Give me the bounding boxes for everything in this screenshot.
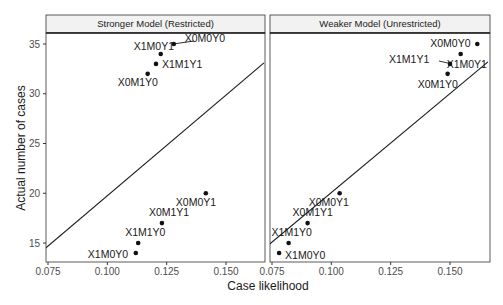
data-point xyxy=(305,221,310,226)
y-tick-label: 25 xyxy=(29,138,41,149)
data-point xyxy=(154,62,159,67)
x-tick-label: 0.150 xyxy=(437,266,462,277)
y-tick-label: 20 xyxy=(29,188,41,199)
data-point xyxy=(204,191,209,196)
data-point-label: X0M1Y0 xyxy=(118,76,158,88)
x-tick-label: 0.075 xyxy=(35,266,60,277)
data-point-label: X1M0Y1 xyxy=(447,58,487,70)
data-point-label: X1M1Y1 xyxy=(162,58,202,70)
y-axis-title: Actual number of cases xyxy=(14,85,28,210)
x-tick-label: 0.125 xyxy=(378,266,403,277)
panel-2: Weaker Model (Unrestricted)0.0750.1000.1… xyxy=(259,15,490,277)
data-point-label: X0M1Y0 xyxy=(418,78,458,90)
x-tick-label: 0.125 xyxy=(154,266,179,277)
data-point xyxy=(158,52,163,57)
y-tick-label: 15 xyxy=(29,238,41,249)
data-point-label: X0M1Y1 xyxy=(149,206,189,218)
facet-strip-label: Stronger Model (Restricted) xyxy=(97,18,214,29)
data-point xyxy=(134,251,139,256)
data-point xyxy=(277,251,282,256)
x-tick-label: 0.100 xyxy=(95,266,120,277)
data-point xyxy=(475,42,480,47)
data-point-label: X1M0Y1 xyxy=(134,40,174,52)
y-tick-label: 30 xyxy=(29,88,41,99)
data-point xyxy=(337,191,342,196)
y-tick-label: 35 xyxy=(29,39,41,50)
data-point-label: X1M1Y1 xyxy=(389,53,429,65)
x-tick-label: 0.150 xyxy=(213,266,238,277)
data-point xyxy=(160,221,165,226)
data-point-label: X1M0Y0 xyxy=(285,249,325,261)
data-point xyxy=(458,52,463,57)
data-point xyxy=(136,241,141,246)
data-point-label: X0M0Y0 xyxy=(430,37,470,49)
data-point-label: X1M1Y0 xyxy=(125,226,165,238)
x-axis-title: Case likelihood xyxy=(227,279,308,293)
data-point-label: X1M0Y0 xyxy=(88,248,128,260)
data-point-label: X0M0Y0 xyxy=(185,32,225,44)
panel-1: Stronger Model (Restricted)0.0750.1000.1… xyxy=(35,15,265,277)
data-point xyxy=(286,241,291,246)
data-point-label: X0M1Y1 xyxy=(293,206,333,218)
data-point xyxy=(448,62,453,67)
y-axis: 1520253035 xyxy=(29,39,46,249)
faceted-scatter-chart: 1520253035Actual number of casesCase lik… xyxy=(0,0,503,305)
data-point xyxy=(445,72,450,77)
facet-strip-label: Weaker Model (Unrestricted) xyxy=(319,18,440,29)
x-tick-label: 0.075 xyxy=(259,266,284,277)
data-point-label: X1M1Y0 xyxy=(272,226,312,238)
x-tick-label: 0.100 xyxy=(319,266,344,277)
